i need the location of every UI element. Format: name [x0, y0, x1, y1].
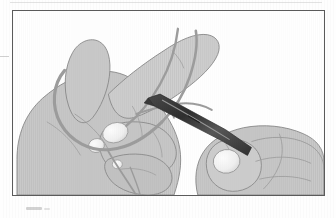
illustration-frame: [12, 10, 325, 196]
instrument-tie-illustration: [13, 11, 324, 195]
page-root: Surgical knot tying — instrument tie: [0, 0, 336, 218]
illustration-scan-overlay: [13, 11, 324, 195]
